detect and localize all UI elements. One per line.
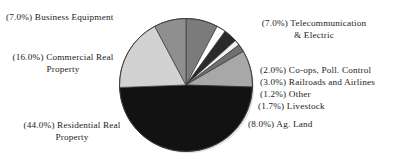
slice-label-coops-poll-control: (2.0%) Co-ops, Poll. Control [260,65,394,77]
slice-label-telecommunication-electric: (7.0%) Telecommunication & Electric [238,18,390,41]
slice-label-business-equipment: (7.0%) Business Equipment [6,12,148,24]
pie-chart-figure: (7.0%) Business Equipment (16.0%) Commer… [0,0,395,160]
slice-label-residential-real-property: (44.0%) Residential Real Property [2,120,142,143]
slice-label-commercial-real-property: (16.0%) Commercial Real Property [2,52,124,75]
chart-title-cropped [0,0,395,6]
slice-label-railroads-and-airlines: (3.0%) Railroads and Airlines [260,77,394,89]
slice-label-other: (1.2%) Other [260,89,394,101]
slice-label-ag-land: (8.0%) Ag. Land [248,119,382,131]
slice-label-livestock: (1.7%) Livestock [258,101,392,113]
